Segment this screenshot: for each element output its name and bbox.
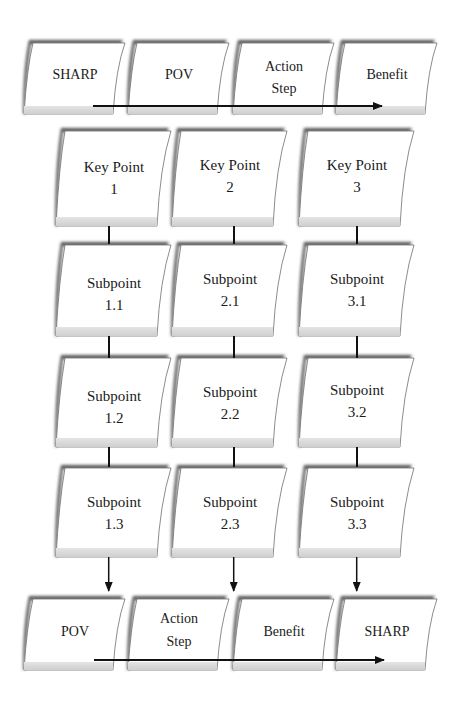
- bottom-card-pov: POV: [23, 594, 127, 674]
- card-label: Subpoint 2.2: [171, 381, 289, 425]
- card-label: Subpoint 1.3: [55, 491, 173, 535]
- card-label: Subpoint 2.1: [171, 268, 289, 312]
- subpoint-1-3-card: Subpoint 1.3: [55, 463, 173, 561]
- top-card-sharp: SHARP: [23, 38, 127, 118]
- key-point-2-card: Key Point 2: [171, 126, 289, 230]
- key-point-3-card: Key Point 3: [298, 126, 416, 230]
- card-label: Subpoint 2.3: [171, 491, 289, 535]
- subpoint-2-3-card: Subpoint 2.3: [171, 463, 289, 561]
- bottom-card-sharp: SHARP: [335, 594, 439, 674]
- connector-line: [356, 336, 358, 358]
- card-label: POV: [23, 622, 127, 641]
- card-label: POV: [127, 65, 231, 84]
- top-card-benefit: Benefit: [335, 38, 439, 118]
- card-label: Action Step: [127, 607, 231, 653]
- subpoint-3-3-card: Subpoint 3.3: [298, 463, 416, 561]
- connector-line: [108, 226, 110, 244]
- card-label: Subpoint 3.3: [298, 491, 416, 535]
- card-label: Subpoint 3.2: [298, 379, 416, 423]
- subpoint-1-1-card: Subpoint 1.1: [55, 240, 173, 340]
- card-label: SHARP: [23, 65, 127, 84]
- card-label: Key Point 1: [55, 156, 173, 200]
- key-point-1-card: Key Point 1: [55, 126, 173, 230]
- bottom-card-action-step: Action Step: [127, 594, 231, 674]
- connector-line: [108, 336, 110, 358]
- subpoint-2-2-card: Subpoint 2.2: [171, 353, 289, 451]
- card-label: Subpoint 1.2: [55, 385, 173, 429]
- card-label: Subpoint 3.1: [298, 268, 416, 312]
- subpoint-3-1-card: Subpoint 3.1: [298, 240, 416, 340]
- subpoint-1-2-card: Subpoint 1.2: [55, 353, 173, 451]
- card-label: Key Point 2: [171, 154, 289, 198]
- connector-line: [108, 447, 110, 467]
- card-label: Action Step: [232, 56, 336, 100]
- connector-line: [233, 447, 235, 467]
- card-label: SHARP: [335, 622, 439, 641]
- card-label: Benefit: [232, 622, 336, 641]
- top-card-action-step: Action Step: [232, 38, 336, 118]
- card-label: Benefit: [335, 65, 439, 84]
- bottom-card-benefit: Benefit: [232, 594, 336, 674]
- connector-line: [356, 447, 358, 467]
- connector-line: [356, 226, 358, 244]
- connector-line: [233, 226, 235, 244]
- connector-line: [233, 336, 235, 358]
- card-label: Subpoint 1.1: [55, 272, 173, 316]
- top-card-pov: POV: [127, 38, 231, 118]
- card-label: Key Point 3: [298, 154, 416, 198]
- subpoint-3-2-card: Subpoint 3.2: [298, 353, 416, 451]
- subpoint-2-1-card: Subpoint 2.1: [171, 240, 289, 340]
